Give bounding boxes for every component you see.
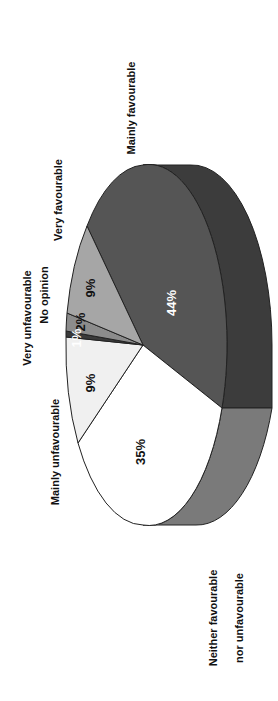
label-neither-line2: nor unfavourable: [233, 573, 245, 663]
label-neither-line1: Neither favourable: [207, 570, 219, 667]
pct-neither: 35%: [133, 439, 148, 465]
pie-chart: 44% 9% 2% 1% 9% 35% Mainly favourable Ve…: [0, 0, 278, 701]
label-no-opinion: No opinion: [38, 266, 50, 324]
pct-mainly-unfavourable: 9%: [83, 373, 98, 392]
pct-mainly-favourable: 44%: [164, 290, 179, 316]
pct-no-opinion: 2%: [73, 312, 88, 331]
pct-very-unfavourable: 1%: [69, 328, 84, 347]
label-very-favourable: Very favourable: [52, 159, 64, 241]
pct-very-favourable: 9%: [83, 278, 98, 297]
label-mainly-favourable: Mainly favourable: [125, 62, 137, 155]
label-very-unfavourable: Very unfavourable: [21, 270, 33, 365]
label-mainly-unfavourable: Mainly unfavourable: [49, 399, 61, 505]
